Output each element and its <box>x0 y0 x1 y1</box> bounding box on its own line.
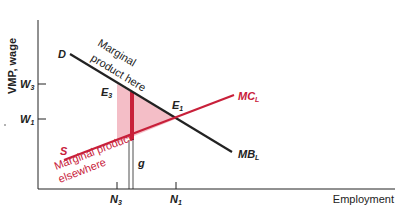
demand-curve <box>70 54 232 152</box>
n1-label: N1 <box>170 193 182 206</box>
y-axis-label: VMP, wage <box>6 38 18 94</box>
w1-label: W1 <box>20 113 34 126</box>
e3-label: E3 <box>101 86 112 99</box>
w3-label: W3 <box>20 78 34 91</box>
x-axis-label: Employment <box>333 193 394 205</box>
mb-label: MBL <box>238 148 259 161</box>
mc-label: MCL <box>238 90 259 103</box>
n3-label: N3 <box>110 193 122 206</box>
e1-label: E1 <box>172 99 183 112</box>
gap-label: g <box>137 157 145 169</box>
labor-market-diagram: VMP, wage W3 W1 N3 N1 Employment D Margi… <box>0 0 413 212</box>
demand-label: D <box>58 48 66 60</box>
